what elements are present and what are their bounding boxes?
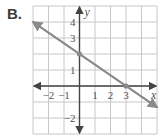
y-tick-label: 1 [70, 64, 76, 76]
y-tick-label: 3 [70, 32, 76, 44]
y-axis-label: y [84, 5, 91, 19]
x-tick-label: 3 [123, 89, 129, 101]
x-tick-label: 2 [108, 89, 114, 101]
data-point [123, 83, 128, 88]
x-axis-label: x [150, 88, 157, 102]
x-tick-label: 1 [92, 89, 98, 101]
y-tick-label: −2 [64, 112, 76, 124]
x-tick-label: −2 [43, 89, 55, 101]
coordinate-plane: −2−1123431−2 x y [0, 0, 165, 137]
data-point [77, 51, 82, 56]
y-tick-label: 4 [70, 16, 76, 28]
x-tick-label: −1 [58, 89, 70, 101]
grid [33, 6, 157, 134]
